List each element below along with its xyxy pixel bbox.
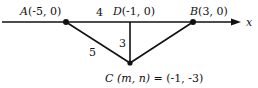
point-c (127, 60, 132, 65)
coordinate-diagram: x A(-5, 0) D(-1, 0) B(3, 0) C (m, n) = (… (0, 0, 258, 88)
point-b-label: B(3, 0) (189, 5, 228, 18)
x-axis-label: x (246, 16, 253, 29)
point-b (190, 19, 196, 25)
segment-bc (130, 22, 193, 63)
point-d-label: D(-1, 0) (112, 5, 155, 18)
point-c-label: C (m, n) = (-1, -3) (105, 72, 203, 85)
segment-ac-length: 5 (89, 46, 96, 59)
point-a (63, 19, 69, 25)
segment-ad-length: 4 (96, 6, 103, 19)
segment-dc-length: 3 (119, 37, 126, 50)
point-a-label: A(-5, 0) (19, 5, 61, 18)
x-axis-arrow-icon (231, 19, 241, 26)
